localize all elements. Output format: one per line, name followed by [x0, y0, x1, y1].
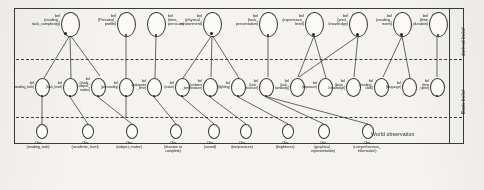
label-basic-language: bel (language): [376, 82, 401, 89]
node-obs-graphical-representation[interactable]: [318, 124, 330, 139]
label-obs-comprehensive-information: Obs (comprehensive_ information): [342, 141, 392, 152]
label-basic-task-structure: bel (task_ structure): [233, 80, 258, 90]
divider-basic-observation: [16, 117, 462, 118]
label-obs-temperature: Obs (temperature): [219, 141, 265, 149]
label-obs-subject-matter: Obs (subject_matter): [102, 141, 156, 149]
label-basic-personality: bel (personality): [92, 82, 118, 89]
label-basic-task-level: bel (task_level): [37, 82, 62, 89]
label-derived-reading-task-complexity: bel (reading_ task_complexity): [16, 14, 60, 26]
label-basic-study-subject-matter: bel (study_ subject_ matter): [64, 78, 90, 92]
label-derived-experience-level: bel (experience_ level): [265, 14, 304, 26]
label-basic-reading-task: bel (reading_task): [8, 82, 34, 89]
divider-derived-basic: [16, 59, 462, 60]
node-obs-reading-task[interactable]: [36, 124, 48, 139]
label-derived-physical-environment: bel (physical_ environment): [160, 14, 202, 26]
label-basic-exposure: bel (exposure): [292, 82, 317, 89]
label-basic-task-familiarity: bel (task_ familiarity): [264, 80, 289, 90]
figure-canvas: bel (reading_ task_complexity) bel (Pers…: [0, 0, 484, 190]
label-derived-personal-profile: bel (Personal_ profile): [78, 14, 116, 26]
label-basic-time-spent: bel (time _spent): [404, 80, 429, 90]
caption-basic-belief: Basic belief: [461, 89, 466, 114]
label-derived-reading-norm: bel (reading_ norm): [358, 14, 392, 26]
caption-derived-belief: derived belief: [461, 27, 466, 56]
label-basic-ambient-temperature: bel (ambient _temperature): [176, 80, 202, 90]
node-obs-subject-matter[interactable]: [126, 124, 138, 139]
label-basic-reading-skills: bel (reading_ skills): [348, 80, 373, 90]
label-basic-lighting: bel (lighting): [205, 82, 230, 89]
label-basic-basic-knowledge: bel (basic_ knowledge): [320, 80, 345, 90]
node-obs-academic-level[interactable]: [82, 124, 94, 139]
label-derived-prior-knowledge: bel (prior_ knowledge): [310, 14, 348, 26]
label-obs-graphical-representation: Obs (graphical_ representation): [300, 141, 346, 152]
label-basic-noise: bel (noise): [150, 82, 174, 89]
label-derived-task-presentation: bel (task_ presentation): [220, 14, 258, 26]
node-obs-temperature[interactable]: [240, 124, 252, 139]
label-basic-adequate-time: bel (adequate _time): [120, 80, 146, 90]
caption-world-observation: World observation: [371, 131, 414, 137]
label-obs-reading-task: Obs (reading_task): [12, 141, 64, 149]
node-obs-duration-to-complete[interactable]: [170, 124, 182, 139]
node-obs-brightness[interactable]: [282, 124, 294, 139]
node-obs-sound[interactable]: [208, 124, 220, 139]
label-derived-time-duration: bel (time _duration): [396, 14, 428, 26]
